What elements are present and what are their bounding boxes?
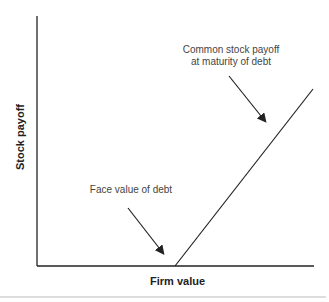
y-axis-label: Stock payoff (14, 97, 26, 177)
annotation-line2: at maturity of debt (178, 56, 284, 68)
arrow-bottom (128, 208, 163, 253)
x-axis-label: Firm value (150, 275, 205, 287)
annotation-line1: Common stock payoff (178, 44, 284, 56)
annotation-stock-payoff: Common stock payoff at maturity of debt (178, 44, 284, 68)
annotation-face-value: Face value of debt (86, 184, 176, 196)
arrow-top (229, 76, 265, 121)
payoff-line (175, 89, 313, 266)
